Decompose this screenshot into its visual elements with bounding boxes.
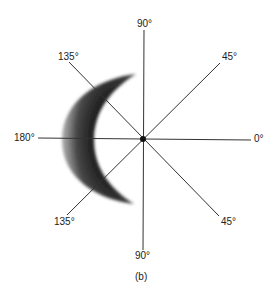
label-135-lower: 135° — [54, 217, 75, 227]
label-45-lower: 45° — [221, 217, 236, 227]
label-135-upper: 135° — [58, 52, 79, 62]
label-45-upper: 45° — [222, 52, 237, 62]
label-0: 0° — [254, 134, 264, 144]
polar-diagram — [0, 0, 273, 291]
label-180: 180° — [14, 133, 35, 143]
label-90-top: 90° — [137, 19, 152, 29]
label-90-bottom: 90° — [135, 251, 150, 261]
center-dot — [140, 136, 146, 142]
figure-caption: (b) — [135, 272, 147, 282]
